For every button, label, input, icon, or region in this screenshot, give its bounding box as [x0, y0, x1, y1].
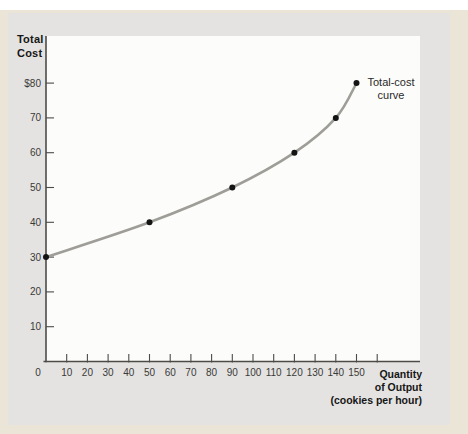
x-tick-label: 100 — [245, 367, 262, 378]
y-tick-label: 70 — [30, 112, 42, 123]
data-point — [354, 80, 360, 86]
x-tick-label: 110 — [266, 367, 282, 378]
y-tick-label: 50 — [30, 182, 42, 193]
data-point — [147, 219, 153, 225]
y-tick-label: 10 — [30, 321, 42, 332]
y-axis-title: Total Cost — [17, 32, 51, 60]
y-axis-title-line2: Cost — [17, 46, 51, 60]
x-tick-label: 90 — [227, 367, 239, 378]
x-axis-title-line1: Quantity — [282, 368, 422, 381]
y-tick-label: 20 — [30, 286, 42, 297]
x-tick-label: 0 — [35, 367, 41, 378]
figure-canvas: 0102030405060708090100110120130140150102… — [0, 0, 468, 434]
x-axis-title-line2: of Output — [282, 381, 422, 394]
x-tick-label: 50 — [144, 367, 156, 378]
y-tick-label: 30 — [30, 252, 42, 263]
annotation-line1: Total-cost — [363, 76, 419, 89]
x-tick-label: 20 — [82, 367, 94, 378]
data-point — [291, 150, 297, 156]
data-point — [229, 185, 235, 191]
y-tick-label: 60 — [30, 147, 42, 158]
total-cost-curve-label: Total-cost curve — [363, 76, 419, 102]
x-tick-label: 70 — [185, 367, 197, 378]
x-tick-label: 60 — [165, 367, 177, 378]
total-cost-curve — [46, 83, 357, 257]
annotation-line2: curve — [363, 89, 419, 102]
x-axis-title: Quantity of Output (cookies per hour) — [282, 368, 422, 407]
x-tick-label: 80 — [206, 367, 218, 378]
x-tick-label: 30 — [103, 367, 115, 378]
y-tick-label: 40 — [30, 217, 42, 228]
data-point — [43, 254, 49, 260]
y-axis-title-line1: Total — [17, 32, 51, 46]
y-tick-label: $80 — [24, 78, 41, 89]
x-tick-label: 40 — [123, 367, 135, 378]
x-axis-title-line3: (cookies per hour) — [282, 394, 422, 407]
data-point — [333, 115, 339, 121]
x-tick-label: 10 — [61, 367, 73, 378]
